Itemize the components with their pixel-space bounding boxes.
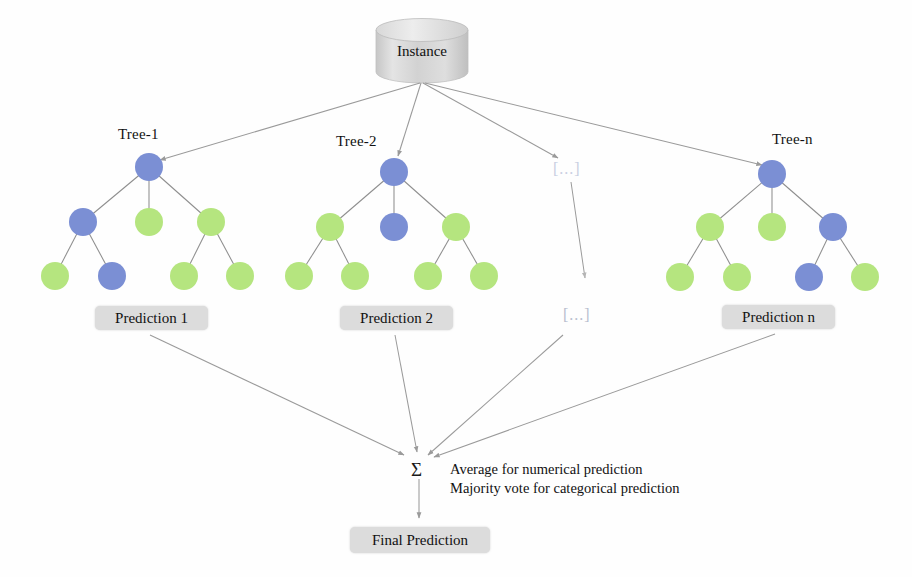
diagram-canvas: Instance Tree-1 Tree-2 Tree-n [...] [...…	[0, 0, 912, 577]
tree1-title: Tree-1	[118, 126, 159, 143]
instance-to-trees-arrows	[160, 83, 762, 165]
arrow-pred2-to-sigma	[395, 335, 417, 452]
treen-nodes	[666, 160, 879, 291]
prediction-n-box[interactable]: Prediction n	[722, 305, 835, 329]
treen-root-node	[758, 160, 786, 188]
tree1-nodes	[41, 153, 254, 290]
aggregation-line-1: Average for numerical prediction	[450, 460, 643, 479]
tree1-leaf-node	[98, 262, 126, 290]
arrow-predn-to-sigma	[434, 334, 775, 457]
ellipsis-connector	[571, 182, 585, 278]
arrow-pred1-to-sigma	[150, 335, 404, 455]
arrow-instance-to-ellipsis	[423, 83, 558, 158]
treen-node	[696, 213, 724, 241]
arrow-instance-to-tree1	[160, 83, 420, 160]
arrow-instance-to-treen	[425, 83, 762, 165]
treen-leaf-node	[851, 263, 879, 291]
tree2-nodes	[285, 158, 498, 290]
tree2-leaf-node	[285, 262, 313, 290]
final-prediction-box[interactable]: Final Prediction	[350, 527, 490, 553]
treen-node	[819, 213, 847, 241]
tree-ellipsis-placeholder: [...]	[553, 160, 581, 178]
tree1-node	[135, 208, 163, 236]
tree1-leaf-node	[226, 262, 254, 290]
treen-leaf-node	[795, 263, 823, 291]
sigma-symbol: Σ	[411, 459, 422, 481]
arrow-ellipsis-to-sigma	[428, 335, 563, 455]
prediction-1-box[interactable]: Prediction 1	[95, 306, 208, 330]
predictions-to-sigma-arrows	[150, 334, 775, 457]
tree1-leaf-node	[170, 262, 198, 290]
prediction-2-box[interactable]: Prediction 2	[340, 306, 453, 330]
instance-label: Instance	[382, 43, 462, 60]
treen-leaf-node	[666, 263, 694, 291]
tree2-leaf-node	[341, 262, 369, 290]
tree2-title: Tree-2	[336, 133, 377, 150]
tree1-node	[69, 208, 97, 236]
treen-leaf-node	[723, 263, 751, 291]
tree2-node	[316, 213, 344, 241]
aggregation-line-2: Majority vote for categorical prediction	[450, 479, 680, 498]
arrow-instance-to-tree2	[398, 83, 421, 156]
tree2-node	[442, 213, 470, 241]
tree1-root-node	[135, 153, 163, 181]
treen-node	[758, 213, 786, 241]
tree2-leaf-node	[470, 262, 498, 290]
tree1-node	[197, 208, 225, 236]
prediction-ellipsis-placeholder: [...]	[563, 306, 591, 324]
tree1-leaf-node	[41, 262, 69, 290]
treen-title: Tree-n	[772, 131, 813, 148]
tree2-root-node	[380, 158, 408, 186]
tree2-leaf-node	[414, 262, 442, 290]
tree2-node	[380, 213, 408, 241]
